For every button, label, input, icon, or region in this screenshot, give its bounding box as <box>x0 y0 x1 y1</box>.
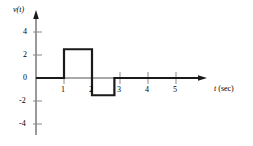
x-axis-title: t (sec) <box>214 85 234 93</box>
y-tick-label-4: 4 <box>23 28 27 36</box>
waveform-figure: 4 2 0 -2 -4 1 2 3 4 5 v(t) t (sec) <box>0 0 253 146</box>
y-axis-arrowhead <box>33 10 39 19</box>
y-axis-title: v(t) <box>13 6 24 14</box>
y-tick-label-2: 2 <box>23 51 27 59</box>
y-tick-label-0: 0 <box>23 74 27 82</box>
x-axis-unit: (sec) <box>218 84 234 93</box>
y-tick-label-minus-4: -4 <box>19 120 26 128</box>
x-tick-label-3: 3 <box>117 86 121 94</box>
x-tick-label-1: 1 <box>61 86 65 94</box>
plot-canvas <box>0 0 253 146</box>
x-tick-label-5: 5 <box>173 86 177 94</box>
x-tick-label-2: 2 <box>89 86 93 94</box>
x-tick-label-4: 4 <box>145 86 149 94</box>
y-tick-label-minus-2: -2 <box>19 97 26 105</box>
